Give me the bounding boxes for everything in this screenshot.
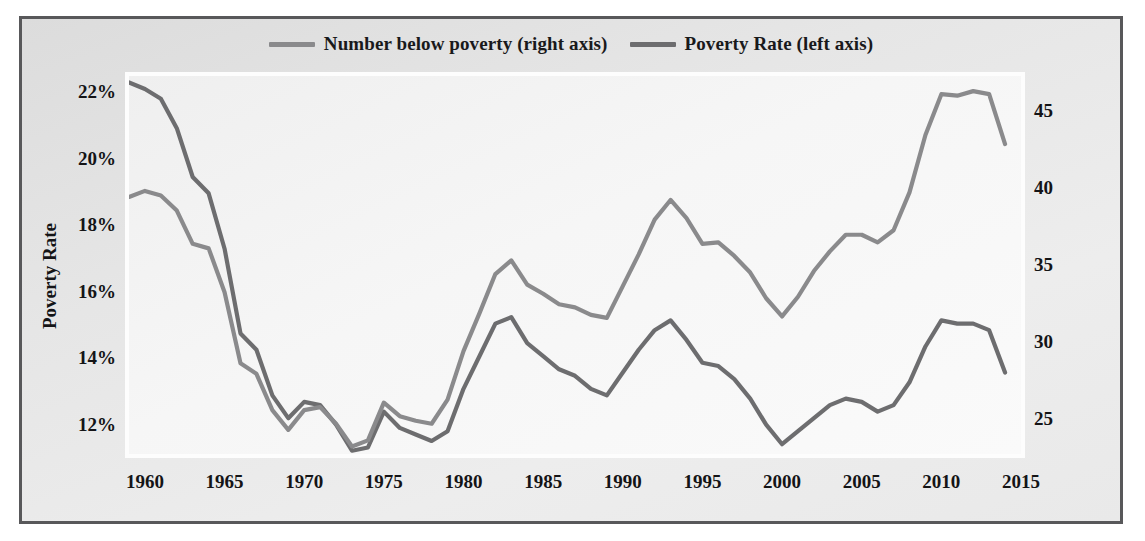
x-tick-2005: 2005 bbox=[843, 471, 881, 493]
chart-frame: Number below poverty (right axis) Povert… bbox=[19, 16, 1123, 524]
right-axis-tick-labels: 2530354045 bbox=[1034, 72, 1086, 458]
legend-item-number-below-poverty: Number below poverty (right axis) bbox=[269, 33, 608, 55]
left-tick-14: 14% bbox=[78, 347, 116, 369]
plot-area bbox=[125, 72, 1025, 458]
poverty-chart-figure: Number below poverty (right axis) Povert… bbox=[0, 0, 1145, 541]
x-tick-2010: 2010 bbox=[922, 471, 960, 493]
left-tick-20: 20% bbox=[78, 148, 116, 170]
left-axis-title: Poverty Rate bbox=[39, 196, 61, 356]
right-tick-40: 40 bbox=[1034, 177, 1053, 199]
series-line-number-below-poverty bbox=[129, 91, 1005, 446]
left-tick-22: 22% bbox=[78, 81, 116, 103]
legend-label-poverty-rate: Poverty Rate (left axis) bbox=[685, 33, 874, 55]
right-tick-25: 25 bbox=[1034, 408, 1053, 430]
left-tick-18: 18% bbox=[78, 214, 116, 236]
right-tick-35: 35 bbox=[1034, 254, 1053, 276]
legend-swatch-number-icon bbox=[269, 42, 315, 47]
plot-lines-svg bbox=[129, 76, 1021, 454]
series-layer bbox=[129, 83, 1005, 451]
x-tick-1995: 1995 bbox=[683, 471, 721, 493]
left-tick-12: 12% bbox=[78, 414, 116, 436]
series-line-poverty-rate bbox=[129, 83, 1005, 451]
x-tick-1960: 1960 bbox=[126, 471, 164, 493]
right-tick-30: 30 bbox=[1034, 331, 1053, 353]
x-tick-1975: 1975 bbox=[365, 471, 403, 493]
right-axis-title: Number below poverty, in millions bbox=[1119, 121, 1123, 431]
x-tick-1970: 1970 bbox=[285, 471, 323, 493]
x-tick-2015: 2015 bbox=[1002, 471, 1040, 493]
x-tick-2000: 2000 bbox=[763, 471, 801, 493]
x-axis-tick-labels: 1960196519701975198019851990199520002005… bbox=[125, 471, 1025, 499]
chart-legend: Number below poverty (right axis) Povert… bbox=[22, 33, 1120, 55]
legend-label-number-below-poverty: Number below poverty (right axis) bbox=[324, 33, 608, 55]
legend-item-poverty-rate: Poverty Rate (left axis) bbox=[630, 33, 874, 55]
left-tick-16: 16% bbox=[78, 281, 116, 303]
x-tick-1965: 1965 bbox=[206, 471, 244, 493]
right-tick-45: 45 bbox=[1034, 100, 1053, 122]
left-axis-tick-labels: 12%14%16%18%20%22% bbox=[52, 72, 116, 458]
x-tick-1980: 1980 bbox=[445, 471, 483, 493]
plot-inner-background bbox=[129, 76, 1021, 454]
x-tick-1990: 1990 bbox=[604, 471, 642, 493]
legend-swatch-rate-icon bbox=[630, 42, 676, 47]
x-tick-1985: 1985 bbox=[524, 471, 562, 493]
